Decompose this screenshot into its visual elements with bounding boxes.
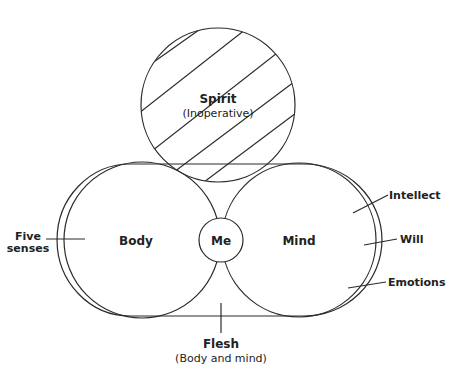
- will-label: Will: [400, 233, 423, 246]
- emotions-label: Emotions: [388, 276, 446, 289]
- spirit-soul-body-diagram: Spirit (Inoperative) Body Me Mind Five s…: [0, 0, 462, 386]
- spirit-subtitle: (Inoperative): [182, 107, 253, 120]
- mind-label: Mind: [282, 234, 315, 248]
- flesh-title: Flesh: [203, 337, 239, 351]
- emotions-pointer: [348, 282, 386, 288]
- will-pointer: [364, 239, 397, 245]
- flesh-subtitle: (Body and mind): [175, 352, 267, 365]
- five-senses-label-line2: senses: [7, 242, 50, 255]
- body-label: Body: [119, 234, 153, 248]
- spirit-title: Spirit: [199, 92, 236, 106]
- intellect-label: Intellect: [389, 189, 440, 202]
- me-label: Me: [211, 234, 231, 248]
